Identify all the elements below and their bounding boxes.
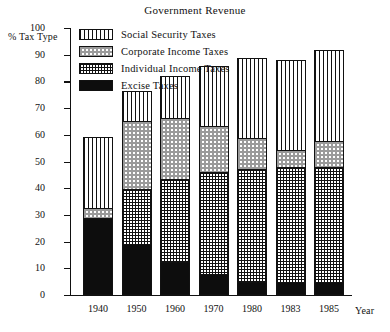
- y-tick-label: 80: [19, 76, 45, 86]
- bar-segment: [122, 244, 152, 295]
- legend-label: Excise Taxes: [121, 80, 178, 91]
- y-tick-label: 100: [19, 23, 45, 33]
- legend-swatch: [79, 46, 113, 57]
- bar-segment: [160, 262, 190, 295]
- y-tick-label: 10: [19, 263, 45, 273]
- bar-segment: [276, 167, 306, 283]
- y-tick: 0: [0, 290, 71, 300]
- chart-legend: Social Security TaxesCorporate Income Ta…: [79, 26, 230, 94]
- legend-label: Social Security Taxes: [121, 29, 216, 40]
- bar-segment: [160, 118, 190, 179]
- x-tick-label: 1985: [307, 303, 351, 314]
- bar-segment: [122, 189, 152, 245]
- legend-label: Corporate Income Taxes: [121, 46, 228, 57]
- stacked-bar: [122, 92, 152, 295]
- bar-segment: [237, 282, 267, 295]
- stacked-bar: [314, 51, 344, 295]
- y-tick: 100: [0, 23, 71, 33]
- bar-segment: [276, 282, 306, 295]
- y-tick-label: 70: [19, 103, 45, 113]
- y-tick: 90: [0, 50, 71, 60]
- bar-segment: [314, 50, 344, 142]
- y-tick: 20: [0, 237, 71, 247]
- legend-item: Excise Taxes: [79, 77, 230, 94]
- y-tick: 70: [0, 103, 71, 113]
- bar-segment: [276, 150, 306, 167]
- bar-segment: [122, 91, 152, 122]
- x-axis-label: Year: [355, 305, 374, 316]
- y-tick-label: 50: [19, 157, 45, 167]
- y-tick-label: 30: [19, 210, 45, 220]
- x-tick-label: 1983: [269, 303, 313, 314]
- legend-item: Individual Income Taxes: [79, 60, 230, 77]
- bar-segment: [83, 218, 113, 295]
- y-tick: 40: [0, 183, 71, 193]
- legend-label: Individual Income Taxes: [121, 63, 230, 74]
- x-tick-label: 1950: [115, 303, 159, 314]
- legend-item: Social Security Taxes: [79, 26, 230, 43]
- bar-segment: [199, 274, 229, 295]
- stacked-bar: [199, 67, 229, 295]
- y-tick: 60: [0, 130, 71, 140]
- bar-segment: [237, 58, 267, 139]
- bar-segment: [237, 138, 267, 170]
- y-tick: 80: [0, 76, 71, 86]
- bar-segment: [314, 167, 344, 283]
- x-tick-label: 1960: [153, 303, 197, 314]
- bar-segment: [237, 169, 267, 282]
- government-revenue-chart: Government Revenue % Tax Type Year 01020…: [0, 0, 390, 332]
- legend-swatch: [79, 63, 113, 74]
- x-tick-label: 1970: [192, 303, 236, 314]
- y-tick-label: 90: [19, 50, 45, 60]
- bar-segment: [199, 172, 229, 275]
- bar-segment: [83, 137, 113, 209]
- stacked-bar: [276, 61, 306, 295]
- legend-swatch: [79, 29, 113, 40]
- y-tick: 30: [0, 210, 71, 220]
- stacked-bar: [160, 77, 190, 295]
- chart-title: Government Revenue: [0, 4, 390, 16]
- x-tick-label: 1980: [230, 303, 274, 314]
- y-tick-label: 20: [19, 237, 45, 247]
- y-tick: 10: [0, 263, 71, 273]
- y-tick-label: 0: [19, 290, 45, 300]
- x-axis-line: [70, 295, 352, 296]
- stacked-bar: [83, 138, 113, 295]
- legend-swatch: [79, 80, 113, 91]
- bar-segment: [314, 282, 344, 295]
- bar-segment: [122, 121, 152, 190]
- bar-segment: [314, 141, 344, 168]
- stacked-bar: [237, 59, 267, 295]
- bar-segment: [276, 60, 306, 151]
- bar-segment: [160, 179, 190, 263]
- x-tick-label: 1940: [76, 303, 120, 314]
- legend-item: Corporate Income Taxes: [79, 43, 230, 60]
- y-tick-label: 40: [19, 183, 45, 193]
- y-tick: 50: [0, 157, 71, 167]
- y-tick-mark: [64, 295, 71, 296]
- bar-segment: [199, 126, 229, 173]
- y-tick-label: 60: [19, 130, 45, 140]
